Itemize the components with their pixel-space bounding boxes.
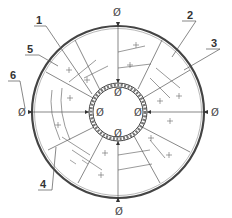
callout-label-5: 5 xyxy=(27,43,33,55)
callout-label-3: 3 xyxy=(211,37,217,49)
diameter-icon-right-outer: Ø xyxy=(211,107,219,118)
callout-leaders xyxy=(8,21,220,190)
cross-section-diagram: 1 2 3 4 5 6 Ø Ø Ø Ø Ø Ø Ø Ø xyxy=(0,0,232,218)
callout-label-6: 6 xyxy=(10,69,16,81)
callout-label-2: 2 xyxy=(187,9,193,21)
segment-arc-lines xyxy=(51,46,180,170)
callout-label-4: 4 xyxy=(40,178,47,190)
diameter-icon-right-inner: Ø xyxy=(134,107,142,118)
callout-label-1: 1 xyxy=(36,14,42,26)
hatch-marks xyxy=(55,42,182,178)
diameter-icon-top-outer: Ø xyxy=(113,7,121,18)
center-axes xyxy=(33,27,203,197)
diameter-icon-left-outer: Ø xyxy=(18,107,26,118)
diameter-icon-bottom-outer: Ø xyxy=(115,206,123,217)
diameter-icon-top-inner: Ø xyxy=(114,87,122,98)
diameter-icon-bottom-inner: Ø xyxy=(114,128,122,139)
diameter-icon-left-inner: Ø xyxy=(96,107,104,118)
